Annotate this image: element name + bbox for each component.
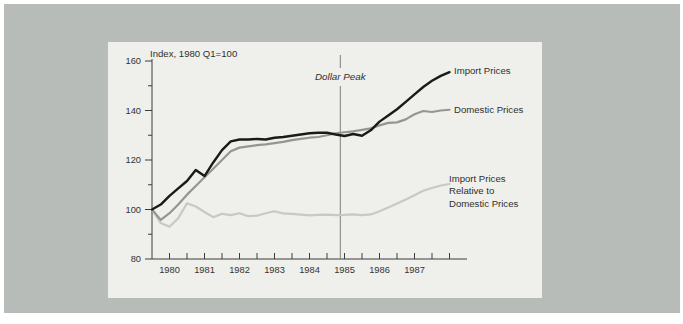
y-tick-label: 100 <box>125 205 141 215</box>
series-label-import-prices-relative-to-domestic-prices: Relative to <box>449 185 494 196</box>
series-line-import-prices-relative-to-domestic-prices <box>152 184 450 227</box>
x-year-label: 1986 <box>369 265 390 275</box>
x-year-label: 1981 <box>194 265 215 275</box>
x-year-label: 1985 <box>334 265 355 275</box>
x-year-label: 1982 <box>229 265 250 275</box>
dollar-peak-label: Dollar Peak <box>315 71 367 82</box>
series-label-import-prices-relative-to-domestic-prices: Domestic Prices <box>449 198 519 209</box>
x-year-label: 1987 <box>404 265 425 275</box>
series-label-import-prices-relative-to-domestic-prices: Import Prices <box>449 173 506 184</box>
series-label-import-prices: Import Prices <box>454 65 511 76</box>
series-line-domestic-prices <box>152 110 450 220</box>
x-year-label: 1983 <box>264 265 285 275</box>
x-year-label: 1980 <box>159 265 180 275</box>
gray-backdrop: Index, 1980 Q1=100 160140120100801980198… <box>4 4 680 313</box>
chart-panel: Index, 1980 Q1=100 160140120100801980198… <box>108 42 542 298</box>
series-label-domestic-prices: Domestic Prices <box>454 104 524 115</box>
plot-svg: Index, 1980 Q1=100 160140120100801980198… <box>108 42 542 298</box>
y-tick-label: 140 <box>125 106 141 116</box>
plot-generated-content: 1601401201008019801981198219831984198519… <box>125 55 523 275</box>
y-tick-label: 160 <box>125 56 141 66</box>
y-tick-label: 120 <box>125 155 141 165</box>
series-line-import-prices <box>152 72 450 209</box>
y-tick-label: 80 <box>131 254 141 264</box>
index-note: Index, 1980 Q1=100 <box>150 48 237 59</box>
x-year-label: 1984 <box>299 265 320 275</box>
